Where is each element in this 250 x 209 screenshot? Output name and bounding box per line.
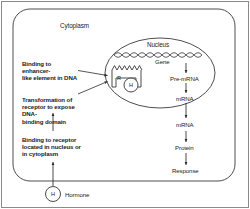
hormone-free-letter: H	[51, 191, 55, 198]
nuclear-envelope	[105, 38, 215, 108]
protein-label: Protein	[175, 144, 194, 151]
annotation-receptor-transformation: Transformation of receptor to expose DNA…	[22, 96, 82, 125]
leader-transformation	[78, 82, 108, 95]
nucleus-label: Nucleus	[147, 41, 169, 48]
receptor-letter: R	[117, 75, 121, 82]
cytoplasm-label: Cytoplasm	[60, 22, 89, 29]
dna-strand	[114, 53, 202, 58]
response-label: Response	[172, 167, 199, 174]
hormone-bound-letter: H	[129, 82, 133, 89]
receptor-zigzag-domain	[112, 66, 142, 70]
annotation-enhancer-binding: Binding to enhancer- like element in DNA	[22, 60, 80, 82]
diagram-canvas: Cytoplasm Nucleus Binding to enhancer- l…	[0, 0, 250, 209]
mrna-nuclear-label: mRNA	[176, 95, 194, 102]
annotation-receptor-binding: Binding to receptor located in nucleus o…	[22, 136, 82, 158]
gene-label: Gene	[155, 58, 170, 65]
hormone-label: Hormone	[65, 191, 89, 198]
leader-enhancer	[78, 71, 108, 76]
mrna-cytoplasmic-label: mRNA	[176, 121, 194, 128]
pre-mrna-label: Pre-mRNA	[170, 75, 199, 82]
